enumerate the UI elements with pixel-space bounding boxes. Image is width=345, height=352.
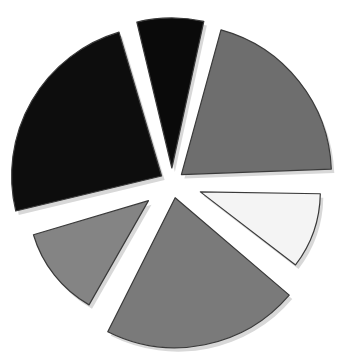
pie-slice-2 [181, 30, 331, 175]
exploded-pie-chart [0, 0, 345, 352]
pie-slices [12, 18, 335, 352]
